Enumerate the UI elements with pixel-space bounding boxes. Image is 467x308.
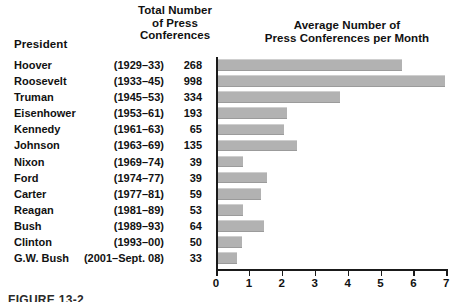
cell-term-years: (1993–00) xyxy=(64,236,164,248)
x-tick-label: 2 xyxy=(272,277,292,289)
bar-roosevelt xyxy=(218,75,445,87)
x-tick-mark xyxy=(216,271,218,276)
bar-row xyxy=(218,250,461,266)
chart-title-line-1: Average Number of xyxy=(232,19,462,32)
bar-series xyxy=(218,57,461,269)
cell-president-name: Carter xyxy=(14,188,46,200)
cell-term-years: (1977–81) xyxy=(64,188,164,200)
column-header-total-line-3: Conferences xyxy=(131,29,219,42)
column-header-total-line-2: of Press xyxy=(131,17,219,30)
bar-nixon xyxy=(218,156,243,168)
cell-term-years: (1961–63) xyxy=(64,123,164,135)
cell-president-name: G.W. Bush xyxy=(14,252,69,264)
cell-term-years: (2001–Sept. 08) xyxy=(64,252,164,264)
bar-reagan xyxy=(218,204,243,216)
chart-title-line-2: Press Conferences per Month xyxy=(232,32,462,45)
cell-total-conferences: 334 xyxy=(166,91,202,103)
x-tick-mark xyxy=(315,271,317,276)
cell-total-conferences: 53 xyxy=(166,204,202,216)
bar-johnson xyxy=(218,140,297,152)
bar-chart-plot-area: 01234567 xyxy=(216,57,461,269)
cell-term-years: (1969–74) xyxy=(64,156,164,168)
x-tick-label: 7 xyxy=(436,277,456,289)
cell-term-years: (1933–45) xyxy=(64,75,164,87)
cell-total-conferences: 39 xyxy=(166,156,202,168)
cell-total-conferences: 193 xyxy=(166,107,202,119)
press-conferences-figure: President Total Number of Press Conferen… xyxy=(0,0,467,308)
bar-row xyxy=(218,137,461,153)
cell-president-name: Kennedy xyxy=(14,123,60,135)
column-header-total-conferences: Total Number of Press Conferences xyxy=(131,4,219,42)
x-tick-label: 5 xyxy=(371,277,391,289)
bar-carter xyxy=(218,188,261,200)
bar-row xyxy=(218,234,461,250)
x-tick-label: 1 xyxy=(239,277,259,289)
cell-term-years: (1963–69) xyxy=(64,139,164,151)
bar-row xyxy=(218,73,461,89)
bar-eisenhower xyxy=(218,107,287,119)
cell-term-years: (1929–33) xyxy=(64,59,164,71)
bar-row xyxy=(218,89,461,105)
bar-row xyxy=(218,186,461,202)
cell-president-name: Ford xyxy=(14,172,38,184)
cell-president-name: Roosevelt xyxy=(14,75,67,87)
x-tick-mark xyxy=(249,271,251,276)
figure-caption: FIGURE 13-2 xyxy=(8,294,84,302)
x-tick-mark xyxy=(446,271,448,276)
bar-bush xyxy=(218,220,264,232)
x-tick-mark xyxy=(381,271,383,276)
bar-row xyxy=(218,154,461,170)
x-tick-label: 6 xyxy=(403,277,423,289)
cell-term-years: (1953–61) xyxy=(64,107,164,119)
bar-row xyxy=(218,57,461,73)
bar-ford xyxy=(218,172,267,184)
cell-total-conferences: 998 xyxy=(166,75,202,87)
bar-row xyxy=(218,105,461,121)
cell-term-years: (1981–89) xyxy=(64,204,164,216)
x-tick-label: 0 xyxy=(206,277,226,289)
cell-president-name: Truman xyxy=(14,91,54,103)
cell-total-conferences: 59 xyxy=(166,188,202,200)
x-tick-label: 4 xyxy=(338,277,358,289)
cell-total-conferences: 33 xyxy=(166,252,202,264)
cell-president-name: Reagan xyxy=(14,204,54,216)
column-header-president: President xyxy=(14,38,67,50)
bar-hoover xyxy=(218,59,402,71)
bar-row xyxy=(218,121,461,137)
x-tick-mark xyxy=(282,271,284,276)
x-tick-mark xyxy=(413,271,415,276)
cell-president-name: Clinton xyxy=(14,236,52,248)
cell-total-conferences: 268 xyxy=(166,59,202,71)
bar-truman xyxy=(218,91,340,103)
cell-president-name: Nixon xyxy=(14,156,45,168)
cell-total-conferences: 50 xyxy=(166,236,202,248)
bar-row xyxy=(218,202,461,218)
cell-total-conferences: 65 xyxy=(166,123,202,135)
column-header-total-line-1: Total Number xyxy=(131,4,219,17)
chart-title: Average Number of Press Conferences per … xyxy=(232,19,462,44)
cell-term-years: (1989–93) xyxy=(64,220,164,232)
bar-clinton xyxy=(218,236,242,248)
bar-row xyxy=(218,218,461,234)
cell-total-conferences: 39 xyxy=(166,172,202,184)
bar-row xyxy=(218,170,461,186)
x-tick-mark xyxy=(348,271,350,276)
cell-term-years: (1945–53) xyxy=(64,91,164,103)
cell-president-name: Bush xyxy=(14,220,42,232)
cell-total-conferences: 64 xyxy=(166,220,202,232)
x-axis-ticks: 01234567 xyxy=(216,271,461,295)
cell-president-name: Hoover xyxy=(14,59,52,71)
cell-total-conferences: 135 xyxy=(166,139,202,151)
cell-term-years: (1974–77) xyxy=(64,172,164,184)
bar-kennedy xyxy=(218,124,284,136)
cell-president-name: Johnson xyxy=(14,139,60,151)
x-tick-label: 3 xyxy=(305,277,325,289)
bar-g-w-bush xyxy=(218,252,237,264)
